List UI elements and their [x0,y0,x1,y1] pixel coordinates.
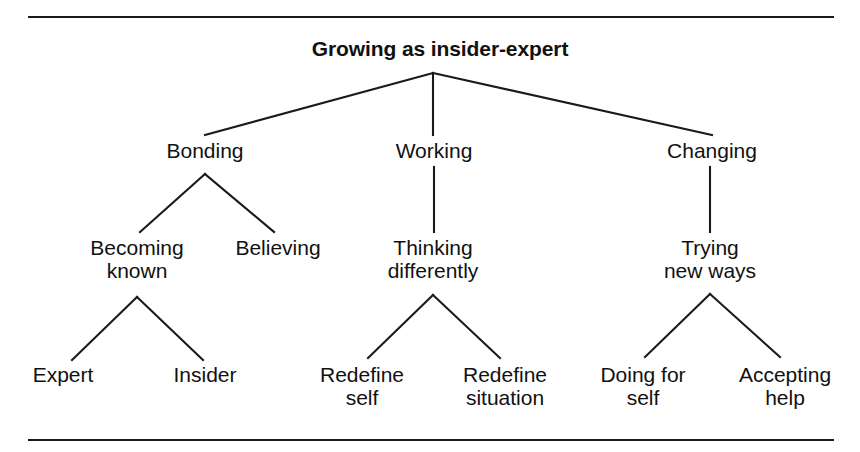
connector-thinking-differently-to-redefine-situation [433,295,500,358]
connector-becoming-known-to-insider [137,297,203,360]
node-redefine-situation: Redefine situation [463,364,547,409]
tree-connectors [0,0,860,452]
bottom-horizontal-rule [28,439,834,441]
node-changing: Changing [667,140,757,163]
connector-root-to-changing [433,73,712,135]
connector-bonding-to-believing [205,174,274,232]
node-root: Growing as insider-expert [312,38,569,61]
node-believing: Believing [235,237,320,260]
node-thinking-differently: Thinking differently [388,237,479,282]
connector-thinking-differently-to-redefine-self [368,295,433,358]
connector-trying-new-ways-to-doing-for-self [645,294,710,357]
node-insider: Insider [173,364,236,387]
connector-trying-new-ways-to-accepting-help [710,294,780,357]
node-becoming-known: Becoming known [90,237,183,282]
node-working: Working [396,140,473,163]
node-expert: Expert [33,364,94,387]
node-accepting-help: Accepting help [739,364,831,409]
node-doing-for-self: Doing for self [600,364,685,409]
node-redefine-self: Redefine self [320,364,404,409]
node-bonding: Bonding [166,140,243,163]
connector-bonding-to-becoming-known [140,174,205,232]
connector-becoming-known-to-expert [72,297,137,360]
connector-root-to-bonding [205,73,433,135]
tree-diagram-figure: Growing as insider-expert Bonding Workin… [0,0,860,452]
node-trying-new-ways: Trying new ways [664,237,756,282]
